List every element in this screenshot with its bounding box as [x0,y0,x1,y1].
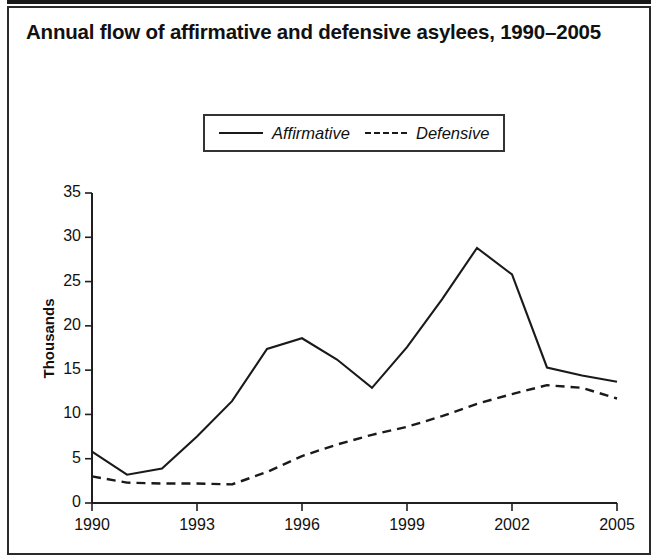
axis-lines [92,193,617,503]
series-line-defensive [92,385,617,484]
plot-area [0,0,661,560]
x-axis-ticks [92,503,617,511]
figure-container: Annual flow of affirmative and defensive… [0,0,661,560]
y-axis-ticks [85,193,92,503]
